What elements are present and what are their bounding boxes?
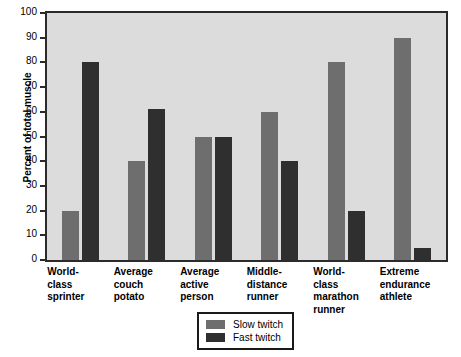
- legend-label-fast-twitch: Fast twitch: [233, 332, 281, 343]
- legend-label-slow-twitch: Slow twitch: [233, 319, 283, 330]
- legend-swatch-slow-twitch: [206, 320, 225, 329]
- x-axis-label-4: World- class marathon runner: [313, 266, 379, 316]
- chart-legend: Slow twitch Fast twitch: [197, 312, 294, 350]
- y-tick-label: 60: [7, 105, 37, 116]
- x-axis-label-0: World- class sprinter: [47, 266, 113, 304]
- bar-slow-twitch-5: [394, 38, 411, 260]
- bars-layer: [47, 13, 446, 260]
- y-tick-label: 100: [7, 6, 37, 17]
- bar-fast-twitch-3: [281, 161, 298, 260]
- bar-slow-twitch-1: [128, 161, 145, 260]
- legend-swatch-fast-twitch: [206, 333, 225, 342]
- x-axis-label-3: Middle- distance runner: [247, 266, 313, 304]
- x-axis-label-5: Extreme endurance athlete: [380, 266, 446, 304]
- muscle-fiber-bar-chart: Percent of total muscle 0102030405060708…: [0, 0, 461, 357]
- bar-slow-twitch-0: [62, 211, 79, 260]
- bar-fast-twitch-2: [215, 137, 232, 261]
- y-tick-label: 80: [7, 55, 37, 66]
- plot-area: [45, 11, 448, 262]
- bar-fast-twitch-5: [414, 248, 431, 260]
- y-tick-label: 50: [7, 130, 37, 141]
- y-tick-label: 90: [7, 31, 37, 42]
- y-tick-label: 70: [7, 80, 37, 91]
- bar-slow-twitch-2: [195, 137, 212, 261]
- bar-fast-twitch-0: [82, 62, 99, 260]
- y-tick-label: 40: [7, 154, 37, 165]
- y-tick-label: 20: [7, 204, 37, 215]
- y-tick-label: 10: [7, 228, 37, 239]
- x-axis-label-2: Average active person: [180, 266, 246, 304]
- y-tick-label: 0: [7, 253, 37, 264]
- bar-fast-twitch-4: [348, 211, 365, 260]
- y-axis-ticks: 0102030405060708090100: [0, 0, 45, 273]
- legend-item-slow-twitch: Slow twitch: [206, 318, 283, 331]
- legend-item-fast-twitch: Fast twitch: [206, 331, 283, 344]
- bar-slow-twitch-4: [328, 62, 345, 260]
- x-axis-label-1: Average couch potato: [114, 266, 180, 304]
- bar-fast-twitch-1: [148, 109, 165, 260]
- y-tick-label: 30: [7, 179, 37, 190]
- bar-slow-twitch-3: [261, 112, 278, 260]
